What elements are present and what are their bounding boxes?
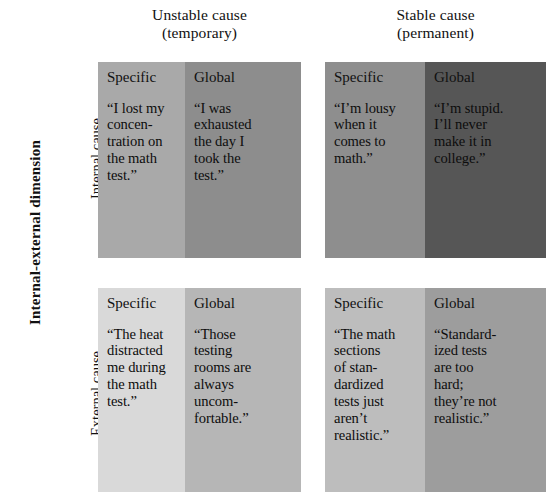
cell-external-stable-global: Global “Standard- ized tests are too har…	[425, 288, 546, 492]
quadrant-internal-unstable: Specific “I lost my concen- tration on t…	[98, 62, 301, 258]
cell-external-stable-specific: Specific “The math sections of stan- dar…	[325, 288, 425, 492]
quadrant-external-unstable: Specific “The heat distracted me during …	[98, 288, 301, 492]
dimension-axis-label: Internal-external dimension	[27, 103, 44, 363]
cell-internal-stable-global: Global “I’m stupid. I’ll never make it i…	[425, 62, 546, 258]
cell-quote-internal-unstable-specific: “I lost my concen- tration on the math t…	[107, 100, 176, 185]
cell-external-unstable-global: Global “Those testing rooms are always u…	[185, 288, 301, 492]
cell-title-specific: Specific	[334, 295, 416, 312]
cell-internal-stable-specific: Specific “I’m lousy when it comes to mat…	[325, 62, 425, 258]
cell-quote-external-unstable-specific: “The heat distracted me during the math …	[107, 326, 176, 411]
cell-quote-internal-stable-specific: “I’m lousy when it comes to math.”	[334, 100, 416, 168]
cell-title-global: Global	[194, 295, 292, 312]
cell-quote-external-unstable-global: “Those testing rooms are always uncom- f…	[194, 326, 292, 428]
cell-quote-internal-unstable-global: “I was exhausted the day I took the test…	[194, 100, 292, 185]
quadrant-external-stable: Specific “The math sections of stan- dar…	[325, 288, 546, 492]
cell-quote-internal-stable-global: “I’m stupid. I’ll never make it in colle…	[434, 100, 537, 168]
cell-internal-unstable-specific: Specific “I lost my concen- tration on t…	[98, 62, 185, 258]
cell-title-global: Global	[434, 295, 537, 312]
cell-title-specific: Specific	[334, 69, 416, 86]
cell-quote-external-stable-specific: “The math sections of stan- dardized tes…	[334, 326, 416, 444]
column-header-stable-cause: Stable cause (permanent)	[325, 6, 546, 42]
column-header-stable-line2: (permanent)	[325, 24, 546, 42]
cell-quote-external-stable-global: “Standard- ized tests are too hard; they…	[434, 326, 537, 428]
cell-title-global: Global	[434, 69, 537, 86]
column-header-unstable-line1: Unstable cause	[152, 6, 247, 23]
attributional-style-matrix: Unstable cause (temporary) Stable cause …	[0, 0, 557, 492]
cell-title-specific: Specific	[107, 295, 176, 312]
cell-internal-unstable-global: Global “I was exhausted the day I took t…	[185, 62, 301, 258]
column-header-stable-line1: Stable cause	[396, 6, 474, 23]
cell-title-global: Global	[194, 69, 292, 86]
column-header-unstable-cause: Unstable cause (temporary)	[98, 6, 301, 42]
column-header-unstable-line2: (temporary)	[98, 24, 301, 42]
quadrant-internal-stable: Specific “I’m lousy when it comes to mat…	[325, 62, 546, 258]
cell-external-unstable-specific: Specific “The heat distracted me during …	[98, 288, 185, 492]
cell-title-specific: Specific	[107, 69, 176, 86]
